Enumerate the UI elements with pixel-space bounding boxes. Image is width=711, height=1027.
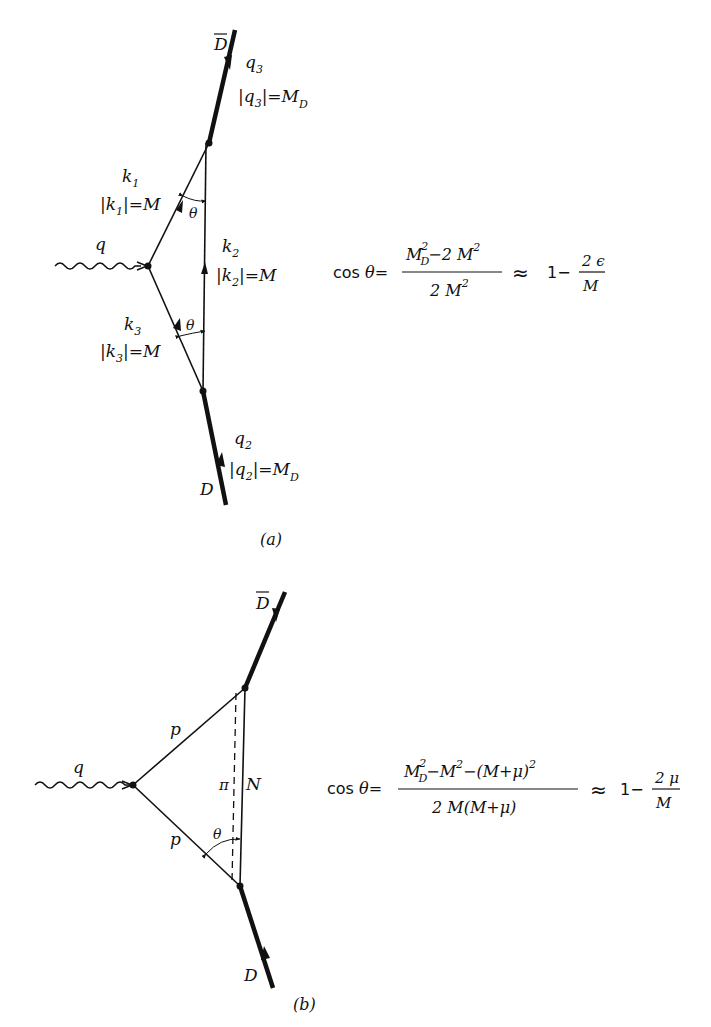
theta-arc-b: [206, 839, 240, 854]
n-label: N: [245, 774, 262, 794]
equation-a: cos θ= MD2−2 M2 2 M2 ≈ 1− 2 ϵ M: [333, 240, 605, 300]
equation-b-denominator: 2 M(M+μ): [431, 798, 516, 817]
theta-label-bottom: θ: [186, 317, 195, 333]
equation-a-rhs-num: 2 ϵ: [581, 252, 605, 270]
equation-b-rhs-num: 2 μ: [654, 769, 679, 787]
equation-b-rhs-one: 1−: [620, 780, 644, 799]
pi-dashed-line: [232, 693, 236, 882]
equation-a-numerator: MD2−2 M2: [405, 240, 480, 268]
q-label-b: q: [73, 757, 84, 777]
vertex-bottom-a: [200, 388, 207, 395]
theta-label-b: θ: [213, 826, 222, 842]
k1-magnitude-label: |k1|=M: [100, 194, 161, 218]
q2-magnitude-label: |q2|=MD: [229, 459, 299, 484]
caption-a: (a): [260, 530, 282, 549]
caption-b: (b): [293, 995, 316, 1014]
equation-a-lhs: cos θ=: [333, 263, 388, 282]
pi-label: π: [218, 776, 230, 794]
p-label-upper: p: [170, 719, 181, 739]
k2-magnitude-label: |k2|=M: [216, 265, 277, 289]
diagram-b: D p p q π N θ D cos θ= MD2−M2−(M+μ)2 2 M…: [35, 592, 680, 1014]
q2-label: q2: [234, 428, 252, 452]
k2-label: k2: [222, 236, 239, 260]
equation-a-rhs-den: M: [582, 277, 599, 295]
q-label-a: q: [95, 234, 106, 254]
approx-sign-b: ≈: [590, 778, 607, 802]
equation-a-rhs-one: 1−: [547, 263, 571, 282]
k3-magnitude-label: |k3|=M: [100, 341, 161, 365]
vertex-left-b: [130, 782, 137, 789]
equation-b-lhs: cos θ=: [327, 779, 382, 798]
q3-label: q3: [245, 52, 263, 76]
d-label-a: D: [199, 479, 214, 499]
equation-b-rhs-den: M: [655, 794, 672, 812]
k1-label: k1: [122, 166, 139, 190]
photon-line-a: [55, 263, 141, 269]
equation-a-denominator: 2 M2: [429, 277, 469, 300]
vertex-left-a: [145, 263, 152, 270]
equation-b-numerator: MD2−M2−(M+μ)2: [403, 757, 536, 785]
p-line-lower: [133, 785, 240, 886]
vertex-top-b: [242, 685, 249, 692]
photon-line-b: [35, 782, 133, 788]
vertex-top-a: [206, 140, 213, 147]
dbar-label-a: D: [213, 34, 228, 54]
p-line-upper: [133, 688, 245, 785]
dbar-label-b: D: [255, 593, 270, 613]
diagram-a: D q3 |q3|=MD k1 |k1|=M θ k2 |k2|=M q k3 …: [55, 30, 605, 549]
feynman-diagrams-figure: D q3 |q3|=MD k1 |k1|=M θ k2 |k2|=M q k3 …: [0, 0, 711, 1027]
approx-sign-a: ≈: [512, 261, 529, 285]
equation-b: cos θ= MD2−M2−(M+μ)2 2 M(M+μ) ≈ 1− 2 μ M: [327, 757, 680, 817]
theta-label-top: θ: [189, 205, 198, 221]
theta-arc-top: [183, 196, 206, 201]
k2-arrow-icon: [201, 262, 208, 274]
p-label-lower: p: [170, 829, 181, 849]
n-line: [240, 688, 245, 886]
vertex-bottom-b: [237, 883, 244, 890]
k3-label: k3: [124, 314, 141, 338]
q3-magnitude-label: |q3|=MD: [238, 86, 308, 111]
d-label-b: D: [243, 965, 258, 985]
